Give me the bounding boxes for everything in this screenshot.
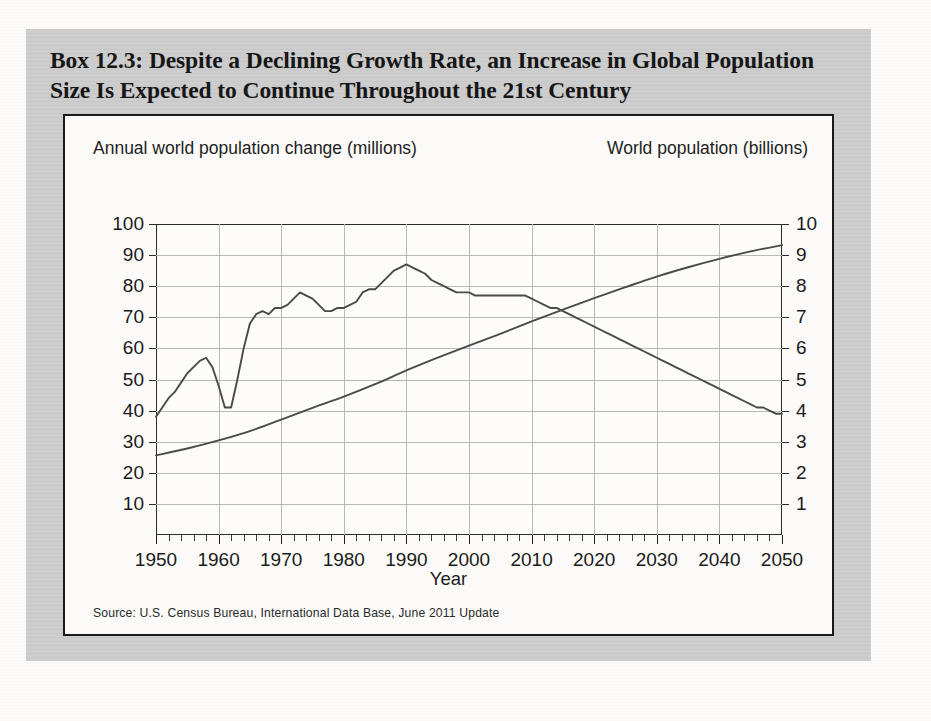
right-tick-label: 6 (796, 337, 807, 359)
axis-tick (782, 255, 789, 256)
x-axis-minor-tick (707, 535, 708, 541)
x-axis-minor-tick (757, 535, 758, 541)
data-series-lines (156, 224, 782, 535)
axis-tick (782, 411, 789, 412)
x-axis-minor-tick (206, 535, 207, 541)
x-axis-minor-tick (394, 535, 395, 541)
line-annual-change (156, 264, 782, 416)
right-tick-label: 9 (796, 244, 807, 266)
left-tick-label: 40 (123, 400, 144, 422)
x-axis-minor-tick (169, 535, 170, 541)
x-axis-minor-tick (444, 535, 445, 541)
axis-tick (782, 504, 789, 505)
right-tick-label: 5 (796, 369, 807, 391)
x-axis-minor-tick (644, 535, 645, 541)
x-axis-major-tick (657, 535, 658, 544)
x-axis-minor-tick (231, 535, 232, 541)
x-axis-minor-tick (619, 535, 620, 541)
x-axis-major-tick (156, 535, 157, 544)
x-axis-major-tick (406, 535, 407, 544)
x-axis-major-tick (782, 535, 783, 544)
x-axis-minor-tick (331, 535, 332, 541)
axis-tick (149, 504, 156, 505)
left-tick-label: 50 (123, 369, 144, 391)
right-tick-label: 1 (796, 493, 807, 515)
x-axis-major-tick (532, 535, 533, 544)
x-axis-minor-tick (569, 535, 570, 541)
x-axis-minor-tick (194, 535, 195, 541)
right-tick-label: 3 (796, 431, 807, 453)
left-tick-label: 30 (123, 431, 144, 453)
left-tick-label: 100 (112, 213, 144, 235)
x-axis-minor-tick (269, 535, 270, 541)
axis-tick (782, 317, 789, 318)
x-axis-minor-tick (381, 535, 382, 541)
x-axis-minor-tick (306, 535, 307, 541)
x-axis-minor-tick (669, 535, 670, 541)
x-axis-minor-tick (294, 535, 295, 541)
x-axis-minor-tick (744, 535, 745, 541)
x-axis-minor-tick (557, 535, 558, 541)
box-title: Box 12.3: Despite a Declining Growth Rat… (50, 45, 850, 105)
left-tick-label: 10 (123, 493, 144, 515)
left-tick-label: 60 (123, 337, 144, 359)
x-axis-title: Year (65, 568, 832, 590)
x-axis-minor-tick (181, 535, 182, 541)
x-axis-minor-tick (419, 535, 420, 541)
line-world-population (156, 245, 782, 455)
right-tick-label: 7 (796, 306, 807, 328)
x-axis-major-tick (344, 535, 345, 544)
axis-tick (149, 255, 156, 256)
left-axis-title: Annual world population change (millions… (93, 138, 417, 159)
axis-tick (149, 317, 156, 318)
axis-tick (782, 380, 789, 381)
x-axis-minor-tick (319, 535, 320, 541)
right-tick-label: 10 (796, 213, 817, 235)
axis-tick (149, 442, 156, 443)
x-axis-minor-tick (544, 535, 545, 541)
text-box-container: Box 12.3: Despite a Declining Growth Rat… (26, 29, 871, 661)
plot-area: 102030405060708090100 12345678910 195019… (156, 224, 782, 535)
left-tick-label: 20 (123, 462, 144, 484)
x-axis-minor-tick (244, 535, 245, 541)
x-axis-minor-tick (519, 535, 520, 541)
x-axis-major-tick (719, 535, 720, 544)
left-tick-label: 70 (123, 306, 144, 328)
x-axis-minor-tick (694, 535, 695, 541)
axis-tick (149, 411, 156, 412)
axis-tick (782, 286, 789, 287)
right-tick-label: 2 (796, 462, 807, 484)
x-axis-minor-tick (431, 535, 432, 541)
x-axis-minor-tick (732, 535, 733, 541)
right-axis-title: World population (billions) (607, 138, 808, 159)
left-tick-label: 90 (123, 244, 144, 266)
x-axis-minor-tick (494, 535, 495, 541)
x-axis-minor-tick (369, 535, 370, 541)
right-tick-label: 8 (796, 275, 807, 297)
axis-tick (149, 224, 156, 225)
axis-tick (149, 380, 156, 381)
x-axis-major-tick (594, 535, 595, 544)
x-axis-minor-tick (607, 535, 608, 541)
axis-tick (149, 286, 156, 287)
right-tick-label: 4 (796, 400, 807, 422)
figure-panel: Annual world population change (millions… (63, 114, 834, 636)
x-axis-major-tick (281, 535, 282, 544)
x-axis-minor-tick (632, 535, 633, 541)
x-axis-minor-tick (456, 535, 457, 541)
axis-tick (782, 442, 789, 443)
axis-tick (782, 348, 789, 349)
x-axis-minor-tick (507, 535, 508, 541)
x-axis-minor-tick (256, 535, 257, 541)
x-axis-minor-tick (356, 535, 357, 541)
x-axis-minor-tick (482, 535, 483, 541)
x-axis-major-tick (469, 535, 470, 544)
axis-tick (782, 473, 789, 474)
x-axis-major-tick (219, 535, 220, 544)
x-axis-minor-tick (682, 535, 683, 541)
axis-tick (149, 473, 156, 474)
x-axis-minor-tick (582, 535, 583, 541)
x-axis-minor-tick (769, 535, 770, 541)
left-tick-label: 80 (123, 275, 144, 297)
axis-tick (782, 224, 789, 225)
